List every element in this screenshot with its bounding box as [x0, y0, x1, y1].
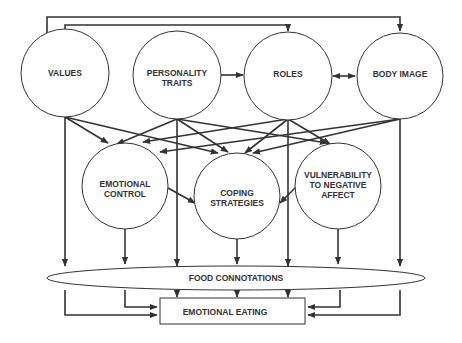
node-roles: ROLES [244, 32, 332, 120]
node-emotional-eating: EMOTIONAL EATING [160, 298, 305, 324]
edge-emotional-control-to-coping [168, 188, 195, 203]
roles-label: ROLES [273, 69, 303, 79]
edge-vulnerability-to-emotional-eating [308, 290, 340, 307]
emotional-control-label-line1: EMOTIONAL [100, 179, 151, 189]
personality-label-line2: TRAITS [162, 78, 193, 88]
coping-label-line2: STRATEGIES [210, 198, 264, 208]
emotional-eating-model-diagram: VALUES PERSONALITY TRAITS ROLES BODY IMA… [0, 0, 462, 343]
node-vulnerability: VULNERABILITY TO NEGATIVE AFFECT [295, 143, 381, 229]
personality-label-line1: PERSONALITY [147, 68, 208, 78]
node-emotional-control: EMOTIONAL CONTROL [82, 143, 168, 229]
food-connotations-label: FOOD CONNOTATIONS [189, 273, 284, 283]
edge-values-to-roles [65, 25, 288, 31]
coping-label-line1: COPING [220, 188, 254, 198]
edge-values-to-emotional-eating [65, 290, 157, 315]
vulnerability-label-line1: VULNERABILITY [304, 170, 372, 180]
node-body-image: BODY IMAGE [357, 33, 443, 119]
edge-body-image-to-emotional-eating [308, 290, 400, 315]
node-personality-traits: PERSONALITY TRAITS [133, 31, 221, 119]
node-food-connotations: FOOD CONNOTATIONS [47, 266, 425, 290]
emotional-eating-label: EMOTIONAL EATING [183, 307, 268, 317]
values-label: VALUES [48, 68, 82, 78]
vulnerability-label-line3: AFFECT [321, 190, 355, 200]
edge-roles-to-emotional-control [143, 119, 288, 142]
body-image-label: BODY IMAGE [373, 69, 428, 79]
node-coping-strategies: COPING STRATEGIES [194, 153, 280, 239]
emotional-control-label-line2: CONTROL [104, 189, 146, 199]
node-values: VALUES [21, 29, 109, 117]
edge-values-to-emotional-control [65, 117, 108, 143]
edge-emotional-control-to-emotional-eating [125, 290, 157, 307]
vulnerability-label-line2: TO NEGATIVE [310, 180, 367, 190]
